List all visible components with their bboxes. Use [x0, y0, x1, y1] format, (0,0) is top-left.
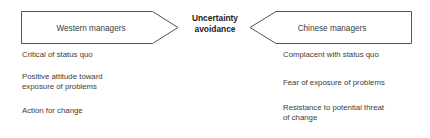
center-title-line-2: avoidance — [182, 24, 248, 35]
center-title-line-1: Uncertainty — [182, 13, 248, 24]
list-item-line: Resistance to potential threat — [283, 103, 429, 113]
list-item-line: exposure of problems — [22, 82, 172, 92]
list-item-line: Critical of status quo — [22, 50, 172, 60]
left-arrow-label: Western managers — [26, 23, 156, 34]
uncertainty-avoidance-diagram: Western managers Chinese managers Uncert… — [0, 0, 430, 138]
right-arrow-label: Chinese managers — [262, 23, 402, 34]
list-item: Fear of exposure of problems — [283, 78, 429, 88]
center-title: Uncertainty avoidance — [182, 13, 248, 34]
list-item: Complacent with status quo — [283, 50, 429, 60]
arrow-band: Western managers Chinese managers Uncert… — [0, 0, 430, 56]
list-item-line: Complacent with status quo — [283, 50, 429, 60]
list-item: Positive attitude toward exposure of pro… — [22, 72, 172, 91]
list-item: Resistance to potential threat of change — [283, 103, 429, 122]
list-item: Critical of status quo — [22, 50, 172, 60]
list-item-line: Fear of exposure of problems — [283, 78, 429, 88]
list-item-line: Positive attitude toward — [22, 72, 172, 82]
list-item-line: of change — [283, 113, 429, 123]
list-item-line: Action for change — [22, 106, 172, 116]
list-item: Action for change — [22, 106, 172, 116]
